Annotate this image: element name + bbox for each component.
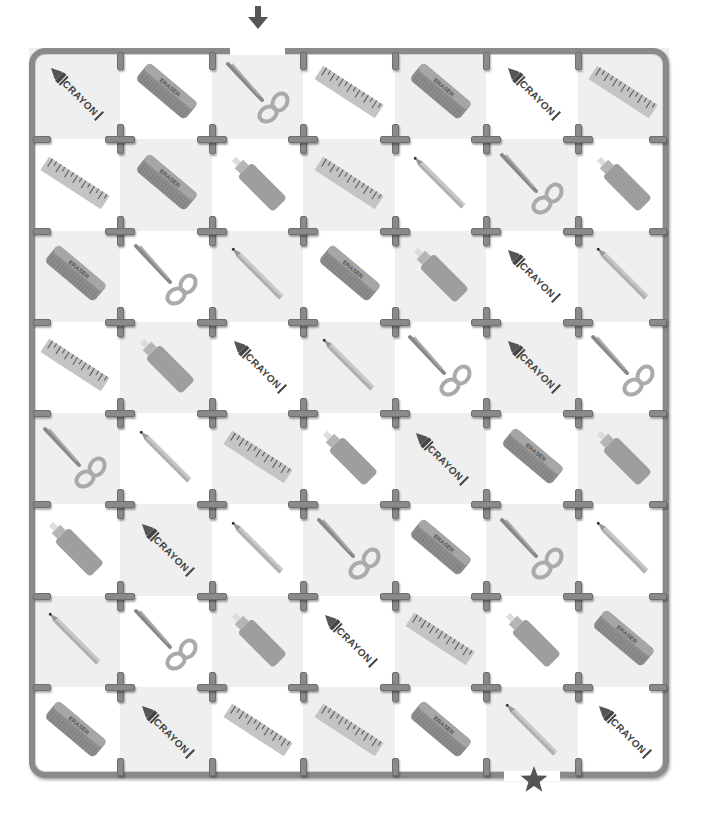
wall-cross bbox=[563, 581, 593, 611]
svg-text:CRAYON: CRAYON bbox=[517, 351, 557, 391]
eraser-icon: ERASER bbox=[39, 694, 111, 770]
ruler-icon bbox=[222, 694, 294, 770]
crayon-icon: CRAYON bbox=[404, 421, 476, 497]
scissors-icon bbox=[404, 329, 476, 405]
svg-text:CRAYON: CRAYON bbox=[517, 260, 557, 300]
wall-stub bbox=[649, 410, 667, 417]
scissors-icon bbox=[39, 421, 111, 497]
wall-cross bbox=[288, 124, 318, 154]
wall-stub bbox=[649, 684, 667, 691]
wall-stub bbox=[392, 758, 399, 776]
crayon-icon: CRAYON bbox=[130, 512, 202, 588]
eraser-icon: ERASER bbox=[404, 512, 476, 588]
eraser-icon: ERASER bbox=[313, 238, 385, 314]
wall-cross bbox=[197, 124, 227, 154]
wall-cross bbox=[197, 489, 227, 519]
wall-cross bbox=[563, 307, 593, 337]
ruler-icon bbox=[222, 421, 294, 497]
wall-cross bbox=[471, 489, 501, 519]
wall-stub bbox=[209, 758, 216, 776]
maze-entrance bbox=[230, 45, 285, 55]
wall-stub bbox=[575, 758, 582, 776]
star-icon bbox=[520, 765, 548, 793]
crayon-icon: CRAYON bbox=[496, 329, 568, 405]
eraser-icon: ERASER bbox=[39, 238, 111, 314]
svg-text:CRAYON: CRAYON bbox=[426, 443, 466, 483]
wall-stub bbox=[483, 758, 490, 776]
pencil-icon bbox=[404, 147, 476, 223]
eraser-icon: ERASER bbox=[404, 694, 476, 770]
wall-cross bbox=[380, 581, 410, 611]
wall-cross bbox=[288, 216, 318, 246]
wall-cross bbox=[288, 489, 318, 519]
wall-cross bbox=[105, 672, 135, 702]
glue-icon bbox=[404, 238, 476, 314]
wall-cross bbox=[471, 307, 501, 337]
pencil-icon bbox=[496, 694, 568, 770]
scissors-icon bbox=[222, 56, 294, 132]
wall-cross bbox=[471, 672, 501, 702]
glue-icon bbox=[587, 421, 659, 497]
wall-cross bbox=[105, 307, 135, 337]
wall-cross bbox=[288, 581, 318, 611]
wall-cross bbox=[380, 489, 410, 519]
wall-stub bbox=[33, 501, 51, 508]
scissors-icon bbox=[496, 512, 568, 588]
wall-stub bbox=[33, 228, 51, 235]
wall-cross bbox=[563, 124, 593, 154]
crayon-icon: CRAYON bbox=[313, 603, 385, 679]
pencil-icon bbox=[313, 329, 385, 405]
wall-stub bbox=[392, 52, 399, 70]
wall-cross bbox=[563, 216, 593, 246]
wall-cross bbox=[563, 672, 593, 702]
wall-cross bbox=[563, 398, 593, 428]
glue-icon bbox=[222, 603, 294, 679]
glue-icon bbox=[39, 512, 111, 588]
wall-stub bbox=[300, 52, 307, 70]
wall-stub bbox=[33, 136, 51, 143]
glue-icon bbox=[496, 603, 568, 679]
ruler-icon bbox=[313, 147, 385, 223]
svg-text:CRAYON: CRAYON bbox=[517, 78, 557, 118]
maze-board: CRAYON ERASER ERASER CRAYON bbox=[29, 48, 669, 778]
eraser-icon: ERASER bbox=[587, 603, 659, 679]
wall-cross bbox=[471, 581, 501, 611]
wall-cross bbox=[563, 489, 593, 519]
svg-text:CRAYON: CRAYON bbox=[609, 716, 649, 756]
wall-stub bbox=[649, 228, 667, 235]
pencil-icon bbox=[39, 603, 111, 679]
ruler-icon bbox=[587, 56, 659, 132]
glue-icon bbox=[130, 329, 202, 405]
svg-text:CRAYON: CRAYON bbox=[151, 716, 191, 756]
pencil-icon bbox=[130, 421, 202, 497]
wall-cross bbox=[197, 398, 227, 428]
down-arrow-icon bbox=[247, 6, 269, 30]
scissors-icon bbox=[130, 238, 202, 314]
eraser-icon: ERASER bbox=[130, 56, 202, 132]
wall-stub bbox=[649, 593, 667, 600]
crayon-icon: CRAYON bbox=[587, 694, 659, 770]
eraser-icon: ERASER bbox=[130, 147, 202, 223]
pencil-icon bbox=[222, 512, 294, 588]
wall-cross bbox=[197, 216, 227, 246]
wall-stub bbox=[33, 593, 51, 600]
scissors-icon bbox=[496, 147, 568, 223]
scissors-icon bbox=[313, 512, 385, 588]
wall-stub bbox=[649, 319, 667, 326]
svg-text:CRAYON: CRAYON bbox=[334, 625, 374, 665]
wall-cross bbox=[288, 398, 318, 428]
ruler-icon bbox=[39, 147, 111, 223]
wall-cross bbox=[197, 672, 227, 702]
wall-cross bbox=[288, 307, 318, 337]
wall-stub bbox=[649, 136, 667, 143]
pencil-icon bbox=[587, 238, 659, 314]
wall-stub bbox=[575, 52, 582, 70]
wall-stub bbox=[483, 52, 490, 70]
svg-text:CRAYON: CRAYON bbox=[243, 351, 283, 391]
eraser-icon: ERASER bbox=[496, 421, 568, 497]
wall-stub bbox=[117, 52, 124, 70]
wall-cross bbox=[380, 216, 410, 246]
svg-text:CRAYON: CRAYON bbox=[60, 78, 100, 118]
wall-cross bbox=[197, 581, 227, 611]
wall-cross bbox=[105, 124, 135, 154]
